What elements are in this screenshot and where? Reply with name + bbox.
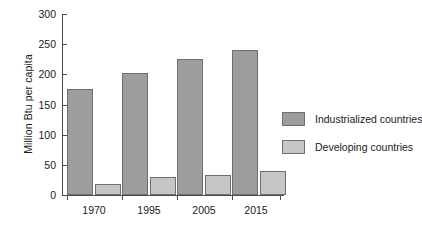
y-tick-label: 150 xyxy=(38,99,56,111)
bar-2005-industrialized xyxy=(177,59,203,195)
bar-2015-industrialized xyxy=(232,50,258,195)
x-tick-label: 2005 xyxy=(192,204,215,216)
bar-1995-developing xyxy=(150,177,176,195)
x-tick-label: 1995 xyxy=(137,204,160,216)
y-tick-label: 50 xyxy=(44,159,56,171)
legend-swatch-icon xyxy=(282,112,305,126)
bar-1970-industrialized xyxy=(67,89,93,195)
y-tick-label: 0 xyxy=(50,189,56,201)
x-tick-label: 1970 xyxy=(82,204,105,216)
y-tick-label: 100 xyxy=(38,129,56,141)
bar-2015-developing xyxy=(260,171,286,195)
bar-1995-industrialized xyxy=(122,73,148,195)
legend-label: Developing countries xyxy=(315,141,413,153)
plot-area: 0 50 100 150 200 250 300 1970 1995 2005 … xyxy=(62,14,284,195)
x-tick-label: 2015 xyxy=(244,204,267,216)
bar-2005-developing xyxy=(205,175,231,195)
x-axis-line xyxy=(62,195,284,196)
legend-item-industrialized: Industrialized countries xyxy=(282,111,422,126)
y-tick-label: 200 xyxy=(38,68,56,80)
y-tick-label: 300 xyxy=(38,8,56,20)
legend-item-developing: Developing countries xyxy=(282,139,413,154)
y-axis-title: Million Btu per capita xyxy=(22,24,34,184)
legend-swatch-icon xyxy=(282,140,305,154)
bar-chart-figure: Million Btu per capita 0 50 100 150 200 … xyxy=(0,0,422,231)
bar-1970-developing xyxy=(95,184,121,195)
legend-label: Industrialized countries xyxy=(315,113,422,125)
y-tick-label: 250 xyxy=(38,38,56,50)
